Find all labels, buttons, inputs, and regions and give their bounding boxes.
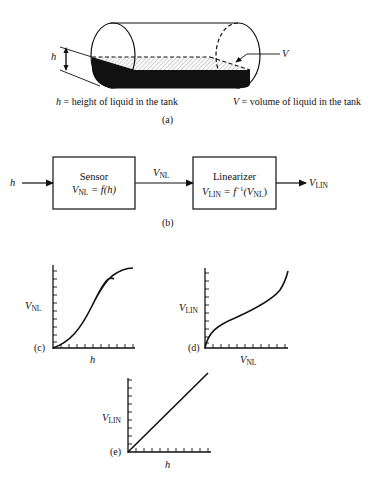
vnl-signal-label: VNL [153,168,169,180]
caption-a: (a) [162,115,173,125]
sensor-box-text: Sensor VNL = f(h) [53,170,135,199]
legend-v-var: V [233,96,239,107]
graph-c [53,265,135,349]
legend-h-var: h [56,96,61,107]
tank-drawing [60,23,280,88]
graph-d [205,268,288,349]
linearizer-title: Linearizer [193,170,276,183]
legend-v: V = volume of liquid in the tank [233,97,361,107]
curve-d [205,271,288,348]
caption-d: (d) [188,343,200,353]
sensor-title: Sensor [53,170,135,183]
linearizer-equation: VLIN = f−1(VNL) [193,183,276,201]
linearizer-box-text: Linearizer VLIN = f−1(VNL) [193,170,276,201]
vlin-output-label: VLIN [309,178,328,190]
legend-v-text: = volume of liquid in the tank [242,96,362,107]
caption-e: (e) [110,447,121,457]
caption-b: (b) [162,218,174,228]
curve-c [53,268,133,348]
graph-e [128,373,211,453]
sensor-equation: VNL = f(h) [53,183,135,199]
graph-e-ylabel: VLIN [102,413,121,425]
graph-c-xlabel: h [90,355,95,366]
diagram-canvas [0,0,383,483]
h-marker: h [51,52,56,63]
input-h-label: h [10,178,15,189]
legend-h: h = height of liquid in the tank [56,97,178,107]
graph-d-xlabel: VNL [240,355,256,367]
graph-d-ylabel: VLIN [179,303,198,315]
v-marker: V [282,49,288,60]
legend-h-text: = height of liquid in the tank [64,96,179,107]
graph-c-ylabel: VNL [25,301,41,313]
graph-e-xlabel: h [165,460,170,471]
caption-c: (c) [34,343,45,353]
line-e [128,373,208,452]
